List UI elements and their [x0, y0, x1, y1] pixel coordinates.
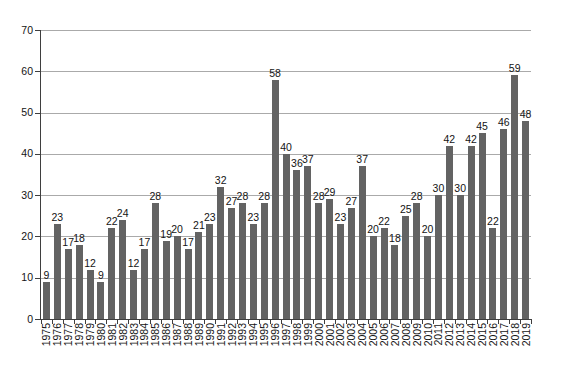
bar-1977	[65, 249, 72, 319]
x-axis-tick	[335, 319, 336, 324]
bar-2016	[489, 228, 496, 319]
x-axis-tick	[161, 319, 162, 324]
x-axis-tick-label-1990: 1990	[204, 323, 216, 359]
x-axis-tick	[215, 319, 216, 324]
x-axis-tick	[204, 319, 205, 324]
x-axis-tick	[74, 319, 75, 324]
bar-1986	[163, 241, 170, 319]
y-axis-tick-label: 50	[1, 106, 33, 119]
bar-1988	[185, 249, 192, 319]
y-axis-tick	[35, 195, 41, 196]
bar-value-label-1999: 37	[295, 153, 321, 165]
bar-value-label-2018: 59	[502, 62, 528, 74]
bar-1975	[43, 282, 50, 319]
x-axis-tick	[368, 319, 369, 324]
bar-1998	[293, 170, 300, 319]
y-axis-tick-label: 30	[1, 189, 33, 202]
x-axis-tick	[172, 319, 173, 324]
x-axis-tick	[270, 319, 271, 324]
x-axis-tick	[400, 319, 401, 324]
bar-2007	[391, 245, 398, 319]
x-axis-tick	[389, 319, 390, 324]
bar-1997	[283, 154, 290, 319]
bar-1983	[130, 270, 137, 320]
x-axis-tick-label-2017: 2017	[498, 323, 510, 359]
bar-2002	[337, 224, 344, 319]
bar-2004	[359, 166, 366, 319]
bar-1980	[97, 282, 104, 319]
x-axis-tick	[95, 319, 96, 324]
bar-1991	[217, 187, 224, 319]
x-axis-tick	[498, 319, 499, 324]
x-axis-tick	[324, 319, 325, 324]
bar-2017	[500, 129, 507, 319]
bar-1984	[141, 249, 148, 319]
x-axis-tick	[346, 319, 347, 324]
x-axis-tick-label-1991: 1991	[215, 323, 227, 359]
x-axis-tick-label-1981: 1981	[106, 323, 118, 359]
bar-value-label-1976: 23	[44, 211, 70, 223]
x-axis-tick	[291, 319, 292, 324]
bar-1985	[152, 203, 159, 319]
x-axis-tick-label-1982: 1982	[117, 323, 129, 359]
bar-1994	[250, 224, 257, 319]
x-axis-tick-label-2019: 2019	[520, 323, 532, 359]
y-axis-tick	[35, 236, 41, 237]
x-axis-tick	[466, 319, 467, 324]
bar-1989	[195, 232, 202, 319]
bar-2003	[348, 208, 355, 320]
y-axis-tick	[35, 71, 41, 72]
bar-value-label-1985: 28	[142, 190, 168, 202]
y-axis-tick-label: 70	[1, 24, 33, 37]
y-axis-tick-label: 0	[1, 313, 33, 326]
bar-1981	[108, 228, 115, 319]
y-axis-tick	[35, 113, 41, 114]
bar-2013	[457, 195, 464, 319]
x-axis-tick	[139, 319, 140, 324]
x-axis-tick	[193, 319, 194, 324]
bar-1990	[206, 224, 213, 319]
bar-2009	[413, 203, 420, 319]
y-axis-tick-label: 40	[1, 147, 33, 160]
x-axis-tick	[226, 319, 227, 324]
bar-1995	[261, 203, 268, 319]
x-axis-tick	[259, 319, 260, 324]
x-axis-tick	[357, 319, 358, 324]
x-axis-tick-label-2000: 2000	[313, 323, 325, 359]
bar-1982	[119, 220, 126, 319]
x-axis-tick	[150, 319, 151, 324]
y-axis-tick	[35, 154, 41, 155]
bar-value-label-2019: 48	[513, 108, 539, 120]
x-axis-tick	[302, 319, 303, 324]
bar-2005	[370, 236, 377, 319]
x-axis-tick	[422, 319, 423, 324]
x-axis-tick	[128, 319, 129, 324]
y-axis-tick-label: 60	[1, 65, 33, 78]
bar-value-label-2006: 22	[371, 215, 397, 227]
x-axis-tick	[52, 319, 53, 324]
x-axis-tick-label-2008: 2008	[400, 323, 412, 359]
x-axis-tick	[63, 319, 64, 324]
x-axis-tick	[487, 319, 488, 324]
bar-value-label-2004: 37	[349, 153, 375, 165]
bar-1999	[304, 166, 311, 319]
bar-value-label-1978: 18	[66, 232, 92, 244]
x-axis-tick-label-1999: 1999	[302, 323, 314, 359]
y-axis-tick-label: 20	[1, 230, 33, 243]
x-axis-tick	[117, 319, 118, 324]
y-axis-tick	[35, 30, 41, 31]
bar-value-label-1979: 12	[77, 257, 103, 269]
bar-chart: 0102030405060709197523197617197718197812…	[0, 0, 565, 367]
x-axis-tick	[248, 319, 249, 324]
x-axis-tick	[411, 319, 412, 324]
y-axis-tick-label: 10	[1, 271, 33, 284]
bar-2012	[446, 146, 453, 319]
bar-2014	[468, 146, 475, 319]
bar-1987	[174, 236, 181, 319]
x-axis-tick	[444, 319, 445, 324]
x-axis-tick	[237, 319, 238, 324]
bar-2010	[424, 236, 431, 319]
x-axis-tick	[379, 319, 380, 324]
bar-value-label-1997: 40	[273, 141, 299, 153]
x-axis-tick	[281, 319, 282, 324]
